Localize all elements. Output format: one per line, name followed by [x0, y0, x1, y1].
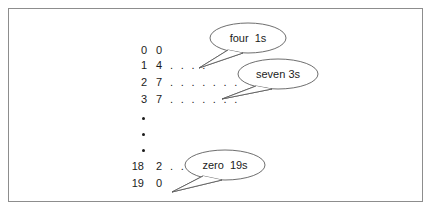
callout-zero-19s-shape: [172, 150, 265, 192]
callout-four-1s-label: four 1s: [210, 32, 286, 44]
callout-seven-3s-label: seven 3s: [238, 68, 318, 80]
callout-zero-19s-label: zero 19s: [185, 159, 265, 171]
figure-canvas: 0 0 1 4 . . . . 2 7 . . . . . . . 3 7 . …: [0, 0, 433, 213]
